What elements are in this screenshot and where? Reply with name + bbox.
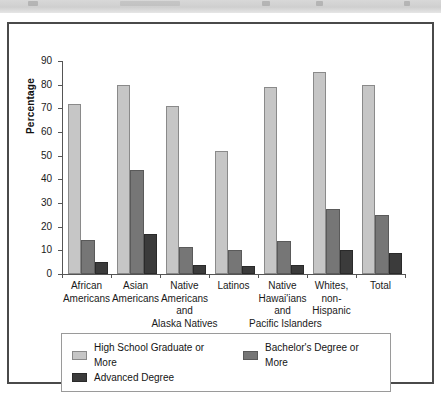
bar <box>389 253 403 274</box>
bar <box>313 72 327 274</box>
x-category-label: Total <box>347 280 414 293</box>
legend-label-high-school: High School Graduate or More <box>94 340 227 370</box>
bar <box>95 262 109 274</box>
bar <box>166 106 180 274</box>
y-tick-label: 10 <box>41 243 52 256</box>
x-tick <box>209 274 210 278</box>
x-category-label-line: non- <box>298 293 365 306</box>
x-category-label-line: Alaska Natives <box>151 318 218 331</box>
bar-group <box>215 61 257 274</box>
bar-group <box>362 61 404 274</box>
bar <box>81 240 95 274</box>
y-tick-label: 40 <box>41 172 52 185</box>
bar <box>326 209 340 274</box>
y-tick: 90 <box>58 61 62 62</box>
legend-row-2: Advanced Degree <box>72 370 382 385</box>
bar <box>375 215 389 274</box>
y-tick: 10 <box>58 250 62 251</box>
x-tick <box>258 274 259 278</box>
y-tick: 40 <box>58 179 62 180</box>
y-axis-line <box>62 61 63 274</box>
y-axis-title: Percentage <box>25 78 36 134</box>
x-category-label-line: Hispanic <box>298 305 365 318</box>
bar-group <box>166 61 208 274</box>
bar-group <box>117 61 159 274</box>
y-tick: 20 <box>58 227 62 228</box>
x-category-label-line: Americans <box>151 293 218 306</box>
x-category-label-line: and <box>151 305 218 318</box>
y-tick: 60 <box>58 132 62 133</box>
y-tick-label: 20 <box>41 220 52 233</box>
bar <box>264 87 278 274</box>
x-tick <box>356 274 357 278</box>
y-tick-label: 60 <box>41 125 52 138</box>
x-tick <box>405 274 406 278</box>
x-tick <box>62 274 63 278</box>
y-tick-label: 90 <box>41 54 52 67</box>
x-axis-line <box>62 274 405 275</box>
y-tick-label: 30 <box>41 196 52 209</box>
bar-group <box>264 61 306 274</box>
legend-item-bachelors: Bachelor's Degree or More <box>243 340 382 370</box>
legend-label-advanced: Advanced Degree <box>94 370 174 385</box>
bar <box>291 265 305 274</box>
chart-legend: High School Graduate or More Bachelor's … <box>61 333 391 392</box>
figure-frame: Percentage 0102030405060708090 AfricanAm… <box>7 22 434 384</box>
bar <box>144 234 158 274</box>
plot-area: 0102030405060708090 <box>62 61 405 274</box>
bar <box>130 170 144 274</box>
bar <box>68 104 82 274</box>
bar <box>340 250 354 274</box>
y-tick: 30 <box>58 203 62 204</box>
legend-item-advanced: Advanced Degree <box>72 370 174 385</box>
y-tick-label: 80 <box>41 78 52 91</box>
bar <box>277 241 291 274</box>
bar <box>117 85 131 274</box>
x-category-label-line: Pacific Islanders <box>249 318 316 331</box>
y-tick: 80 <box>58 85 62 86</box>
x-category-label-line: Total <box>347 280 414 293</box>
y-tick-label: 0 <box>46 267 52 280</box>
bar <box>242 266 256 274</box>
y-tick-label: 50 <box>41 149 52 162</box>
legend-label-bachelors: Bachelor's Degree or More <box>265 340 382 370</box>
legend-swatch-high-school <box>72 351 87 360</box>
bar <box>179 247 193 274</box>
bar-group <box>68 61 110 274</box>
legend-item-high-school: High School Graduate or More <box>72 340 227 370</box>
y-tick: 70 <box>58 108 62 109</box>
x-tick <box>111 274 112 278</box>
legend-swatch-advanced <box>72 373 87 382</box>
bar <box>215 151 229 274</box>
y-tick: 50 <box>58 156 62 157</box>
cropped-text-band <box>0 0 441 13</box>
y-tick-label: 70 <box>41 101 52 114</box>
legend-row-1: High School Graduate or More Bachelor's … <box>72 340 382 370</box>
bar <box>193 265 207 274</box>
x-tick <box>307 274 308 278</box>
bar <box>362 85 376 274</box>
x-tick <box>160 274 161 278</box>
legend-swatch-bachelors <box>243 351 258 360</box>
bar-group <box>313 61 355 274</box>
bar <box>228 250 242 274</box>
